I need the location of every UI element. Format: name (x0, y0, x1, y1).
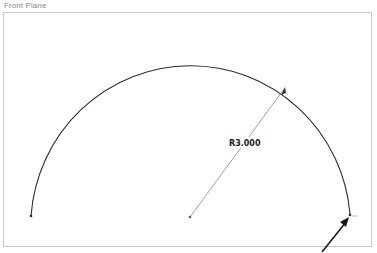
arc-endpoint-right[interactable] (349, 214, 352, 217)
radius-dimension-label[interactable]: R3.000 (229, 139, 261, 148)
arc-endpoint-left[interactable] (30, 215, 33, 218)
mouse-cursor-icon (322, 217, 349, 252)
radius-dimension-line[interactable] (190, 89, 284, 217)
dimension-arrowhead (281, 87, 286, 95)
sketch-arc[interactable] (31, 66, 350, 216)
sketch-canvas[interactable]: R3.000 (0, 0, 377, 253)
